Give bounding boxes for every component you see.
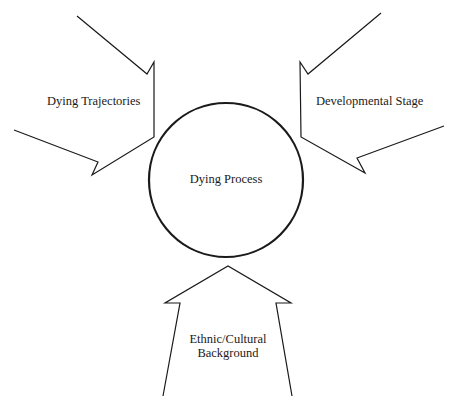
dying-process-label: Dying Process [176,173,276,186]
background-label: Background [178,347,278,360]
dying-trajectories-label: Dying Trajectories [47,95,140,108]
ethnic-cultural-label: Ethnic/Cultural [178,333,278,346]
ethnic-cultural-background-arrow [163,266,292,396]
diagram-canvas: Dying Trajectories Developmental Stage D… [0,0,457,410]
developmental-stage-label: Developmental Stage [316,95,423,108]
developmental-stage-arrow [300,13,444,173]
